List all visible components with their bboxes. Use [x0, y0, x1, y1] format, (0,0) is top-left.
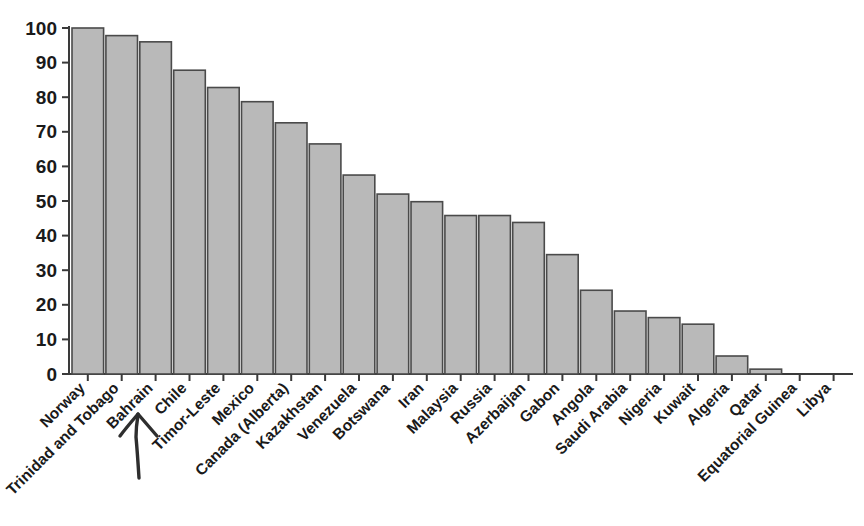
- bar: [343, 175, 375, 374]
- bar: [377, 194, 409, 374]
- bar: [208, 88, 240, 374]
- bar: [275, 123, 307, 374]
- bar: [445, 216, 477, 374]
- bar: [174, 70, 206, 374]
- y-axis-tick-label: 60: [36, 156, 57, 177]
- y-axis-tick-label: 80: [36, 87, 57, 108]
- y-axis-tick-label: 90: [36, 52, 57, 73]
- bar: [547, 255, 579, 374]
- y-axis-tick-label: 50: [36, 191, 57, 212]
- y-axis-tick-label: 70: [36, 121, 57, 142]
- bar: [581, 290, 613, 374]
- bar: [614, 311, 646, 374]
- y-axis-tick-label: 0: [46, 364, 57, 385]
- bar: [682, 324, 714, 374]
- bar: [72, 28, 104, 374]
- hand-drawn-arrow: [120, 414, 157, 478]
- bars-group: [72, 28, 782, 374]
- bar: [513, 222, 545, 374]
- bar: [106, 36, 138, 374]
- y-axis-tick-label: 30: [36, 260, 57, 281]
- bar: [242, 102, 274, 374]
- bar: [411, 202, 443, 374]
- bar: [750, 369, 782, 374]
- x-axis-tick-marks: [88, 374, 834, 381]
- bar: [716, 356, 748, 374]
- bar: [309, 144, 341, 374]
- y-axis-tick-label: 100: [25, 18, 57, 39]
- bar: [648, 318, 680, 374]
- bar-chart: 0102030405060708090100 NorwayTrinidad an…: [0, 0, 864, 526]
- x-axis-category-labels: NorwayTrinidad and TobagoBahrainChileTim…: [3, 379, 834, 498]
- bar: [140, 42, 172, 374]
- y-axis-tick-label: 20: [36, 294, 57, 315]
- y-axis-tick-label: 40: [36, 225, 57, 246]
- y-axis-tick-label: 10: [36, 329, 57, 350]
- chart-canvas: 0102030405060708090100 NorwayTrinidad an…: [0, 0, 864, 526]
- bar: [479, 216, 511, 374]
- x-axis-category-label: Libya: [793, 379, 834, 420]
- y-axis-tick-labels: 0102030405060708090100: [25, 18, 57, 385]
- y-axis-tick-marks: [62, 28, 69, 374]
